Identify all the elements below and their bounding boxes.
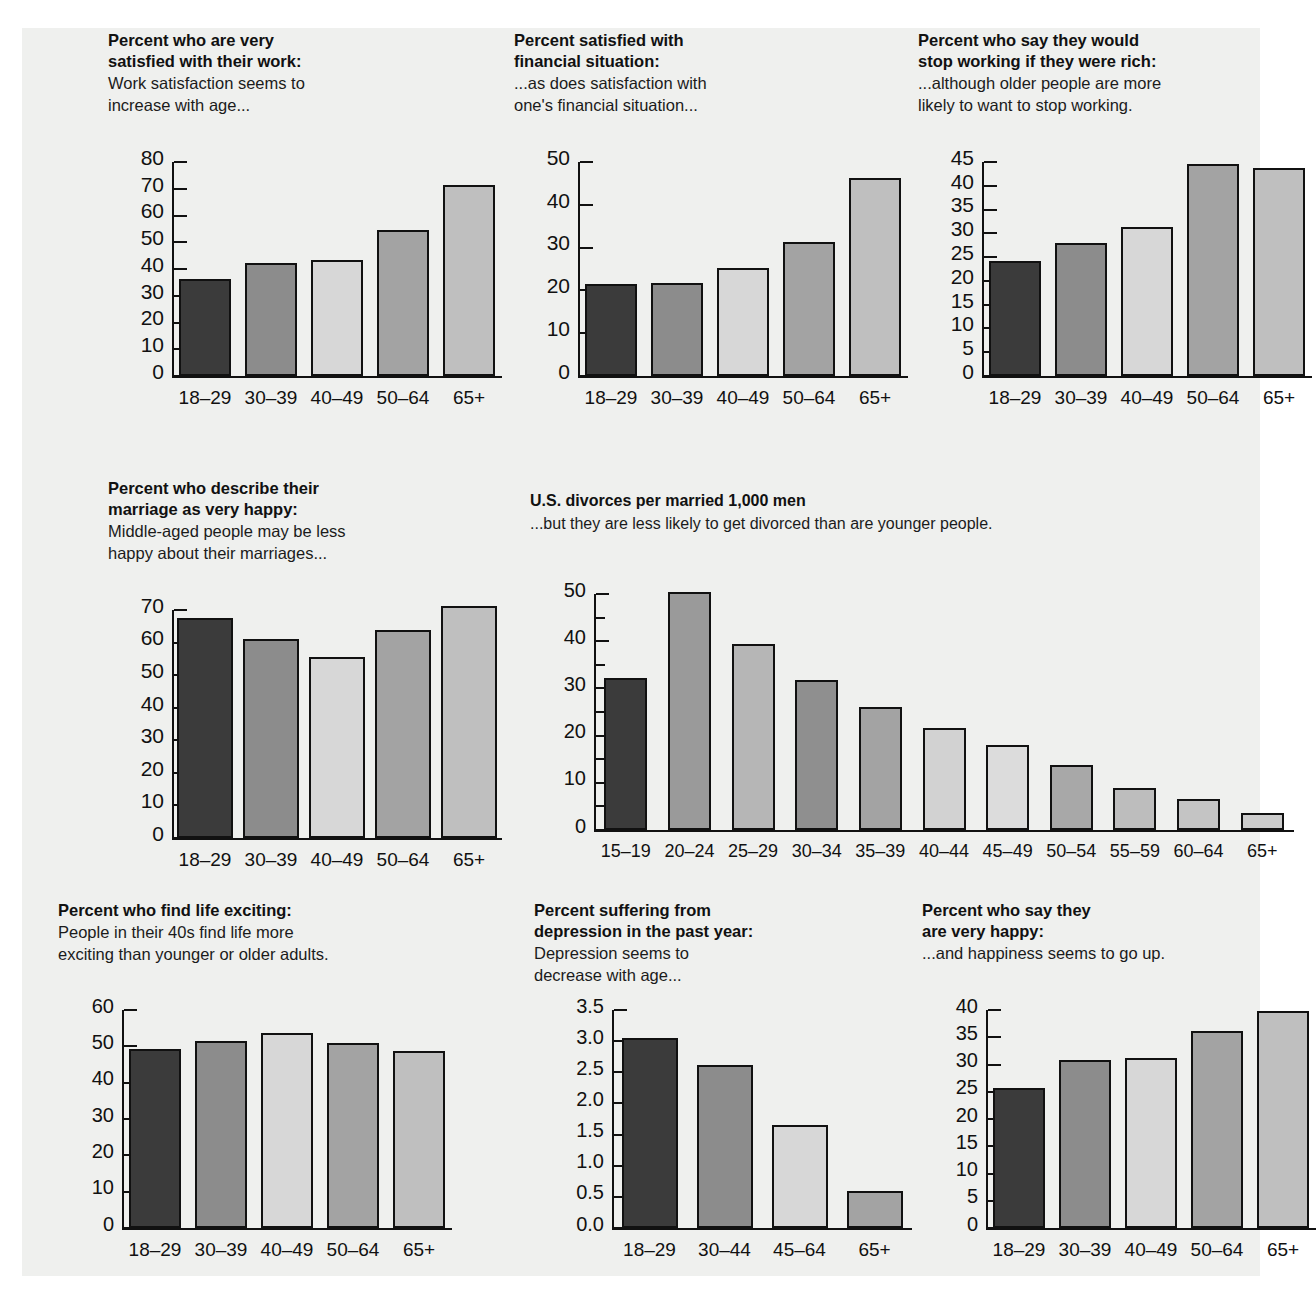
bar: [1055, 243, 1107, 376]
chart-subtitle-line: Depression seems to: [534, 942, 689, 964]
y-tick-label: 30: [532, 232, 570, 253]
bar: [393, 1051, 445, 1228]
bar: [1059, 1060, 1111, 1228]
y-tick: [984, 209, 997, 211]
y-tick-label: 40: [126, 693, 164, 714]
y-tick: [124, 1009, 137, 1011]
bar: [668, 592, 711, 830]
y-tick-label: 70: [126, 595, 164, 616]
x-tick-label: 65+: [386, 1238, 452, 1261]
y-tick: [174, 188, 187, 190]
y-tick: [984, 161, 997, 163]
x-tick-label: 50–54: [1039, 840, 1103, 862]
x-tick-label: 65+: [436, 386, 502, 409]
x-tick-label: 18–29: [172, 386, 238, 409]
chart-subtitle-line: ...but they are less likely to get divor…: [530, 512, 993, 536]
plot-area: 0102030405015–1920–2425–2930–3435–3940–4…: [594, 594, 1294, 830]
chart-subtitle-line: decrease with age...: [534, 964, 682, 986]
chart-subtitle-line: one's financial situation...: [514, 94, 698, 116]
chart-subtitle-line: likely to want to stop working.: [918, 94, 1133, 116]
x-tick-label: 30–44: [687, 1238, 762, 1261]
bar: [129, 1049, 181, 1228]
y-tick-label: 40: [126, 254, 164, 275]
x-tick-label: 30–39: [1052, 1238, 1118, 1261]
y-tick: [984, 232, 997, 234]
chart-title-line: Percent satisfied with: [514, 30, 684, 51]
bar: [772, 1125, 828, 1228]
y-tick-label: 20: [548, 721, 586, 741]
bar: [993, 1088, 1045, 1228]
y-tick-label: 35: [936, 194, 974, 215]
x-tick-label: 35–39: [849, 840, 913, 862]
y-tick-label: 0.5: [552, 1182, 604, 1202]
y-axis-line: [594, 594, 596, 832]
y-tick-label: 45: [936, 147, 974, 168]
y-tick-label: 20: [126, 307, 164, 328]
y-tick-label: 2.0: [552, 1089, 604, 1109]
x-axis-line: [982, 376, 1312, 378]
x-tick-label: 20–24: [658, 840, 722, 862]
y-tick: [124, 1045, 137, 1047]
y-tick: [596, 593, 609, 595]
bar: [309, 657, 365, 838]
figure-panel: Percent who are verysatisfied with their…: [22, 28, 1260, 1276]
y-tick-label: 5: [936, 337, 974, 358]
chart-title-line: depression in the past year:: [534, 921, 753, 942]
y-tick-label: 0: [936, 361, 974, 382]
chart-subtitle-line: exciting than younger or older adults.: [58, 943, 329, 965]
y-tick-label: 30: [126, 725, 164, 746]
x-tick-label: 45–64: [762, 1238, 837, 1261]
bar: [1257, 1011, 1309, 1228]
x-tick-label: 30–39: [644, 386, 710, 409]
bar: [849, 178, 901, 376]
x-tick-label: 18–29: [982, 386, 1048, 409]
chart-title-line: financial situation:: [514, 51, 660, 72]
x-axis-line: [986, 1228, 1316, 1230]
bar: [585, 284, 637, 376]
y-tick-label: 40: [940, 996, 978, 1016]
y-tick: [988, 1036, 1001, 1038]
y-tick-label: 20: [126, 758, 164, 779]
plot-area: 01020304050607018–2930–3940–4950–6465+: [172, 610, 502, 838]
x-tick-label: 65+: [1230, 840, 1294, 862]
y-tick-label: 80: [126, 147, 164, 168]
x-tick-label: 60–64: [1167, 840, 1231, 862]
x-tick-label: 65+: [1250, 1238, 1316, 1261]
x-tick-label: 30–39: [238, 386, 304, 409]
y-tick: [614, 1009, 627, 1011]
chart-title-line: Percent suffering from: [534, 900, 711, 921]
y-tick: [580, 204, 593, 206]
x-tick-label: 40–49: [304, 386, 370, 409]
x-tick-label: 30–39: [1048, 386, 1114, 409]
chart-title-line: satisfied with their work:: [108, 51, 301, 72]
bar: [1121, 227, 1173, 376]
x-tick-label: 40–49: [254, 1238, 320, 1261]
chart-title-line: Percent who describe their: [108, 478, 319, 499]
y-tick: [174, 268, 187, 270]
y-tick-label: 2.5: [552, 1058, 604, 1078]
y-tick-label: 60: [126, 200, 164, 221]
y-tick-label: 60: [126, 627, 164, 648]
y-tick-label: 0: [532, 361, 570, 382]
bar: [697, 1065, 753, 1228]
chart-title-line: Percent who are very: [108, 30, 274, 51]
x-tick-label: 40–49: [710, 386, 776, 409]
plot-area: 010203040506018–2930–3940–4950–6465+: [122, 1010, 452, 1228]
x-tick-label: 40–44: [912, 840, 976, 862]
y-tick: [984, 185, 997, 187]
x-axis-line: [172, 838, 502, 840]
bar: [1050, 765, 1093, 830]
chart-subtitle-line: increase with age...: [108, 94, 250, 116]
plot-area: 05101520253035404518–2930–3940–4950–6465…: [982, 162, 1312, 376]
bar: [441, 606, 497, 838]
x-tick-label: 18–29: [578, 386, 644, 409]
y-tick: [174, 215, 187, 217]
y-tick: [580, 247, 593, 249]
y-tick-label: 50: [548, 580, 586, 600]
y-tick-label: 40: [76, 1068, 114, 1088]
chart-subtitle-line: Work satisfaction seems to: [108, 72, 305, 94]
x-tick-label: 65+: [842, 386, 908, 409]
chart-title-line: U.S. divorces per married 1,000 men: [530, 490, 806, 512]
x-tick-label: 50–64: [776, 386, 842, 409]
x-tick-label: 30–39: [238, 848, 304, 871]
